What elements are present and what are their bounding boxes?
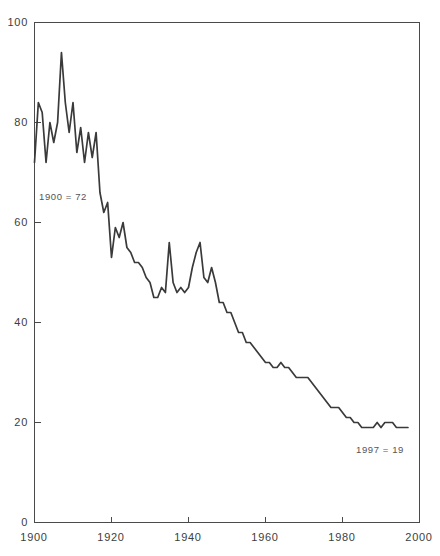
y-axis-label-80: 80	[0, 116, 28, 128]
y-axis-label-20: 20	[0, 416, 28, 428]
plot-area	[0, 0, 440, 556]
annotation-start: 1900 = 72	[39, 191, 87, 202]
x-axis-label-1920: 1920	[88, 531, 134, 543]
y-axis-label-40: 40	[0, 316, 28, 328]
data-series-line	[35, 53, 408, 428]
annotation-end: 1997 = 19	[356, 444, 404, 455]
x-axis-label-1960: 1960	[242, 531, 288, 543]
x-axis-label-2000: 2000	[396, 531, 440, 543]
x-axis-label-1940: 1940	[165, 531, 211, 543]
x-axis-label-1980: 1980	[319, 531, 365, 543]
y-axis-label-100: 100	[0, 16, 28, 28]
chart-container: 100 80 60 40 20 0 1900 1920 1940 1960 19…	[0, 0, 440, 556]
x-axis-label-1900: 1900	[11, 531, 57, 543]
y-axis-label-0: 0	[0, 516, 28, 528]
y-axis-label-60: 60	[0, 216, 28, 228]
